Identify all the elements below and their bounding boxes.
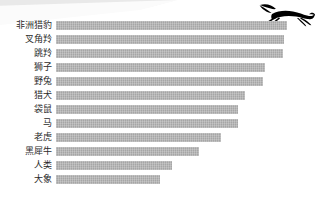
bar <box>56 35 284 44</box>
chart-row: 猎犬 <box>0 88 319 102</box>
bar <box>56 21 287 30</box>
chart-row: 黑犀牛 <box>0 144 319 158</box>
bar-label: 大象 <box>0 172 52 186</box>
chart-row: 野兔 <box>0 74 319 88</box>
bar <box>56 91 245 100</box>
bar <box>56 105 238 114</box>
bar-label: 黑犀牛 <box>0 144 52 158</box>
bar <box>56 133 221 142</box>
bar <box>56 63 265 72</box>
chart-row: 叉角羚 <box>0 32 319 46</box>
chart-row: 跳羚 <box>0 46 319 60</box>
chart-row: 狮子 <box>0 60 319 74</box>
bar <box>56 49 283 58</box>
chart-row: 非洲猎豹 <box>0 18 319 32</box>
chart-row: 袋鼠 <box>0 102 319 116</box>
chart-row: 马 <box>0 116 319 130</box>
bar-label: 野兔 <box>0 74 52 88</box>
bar-label: 叉角羚 <box>0 32 52 46</box>
bar <box>56 119 238 128</box>
chart-page: 非洲猎豹 叉角羚 跳羚 狮子 野兔 猎犬 袋鼠 马 <box>0 0 319 208</box>
bar-label: 马 <box>0 116 52 130</box>
bar <box>56 161 172 170</box>
horizontal-bar-chart: 非洲猎豹 叉角羚 跳羚 狮子 野兔 猎犬 袋鼠 马 <box>0 0 319 208</box>
bar <box>56 147 199 156</box>
chart-row: 老虎 <box>0 130 319 144</box>
bar-label: 袋鼠 <box>0 102 52 116</box>
bar-label: 非洲猎豹 <box>0 18 52 32</box>
bar-label: 猎犬 <box>0 88 52 102</box>
chart-row: 大象 <box>0 172 319 186</box>
bar-label: 老虎 <box>0 130 52 144</box>
bar <box>56 77 263 86</box>
bar-label: 人类 <box>0 158 52 172</box>
bar <box>56 175 160 184</box>
bar-label: 跳羚 <box>0 46 52 60</box>
chart-row: 人类 <box>0 158 319 172</box>
bar-label: 狮子 <box>0 60 52 74</box>
